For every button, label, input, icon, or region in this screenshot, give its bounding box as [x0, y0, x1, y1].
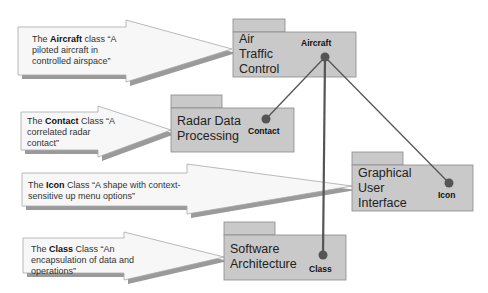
- callout-text-icon: The Icon Class “A shape with context-sen…: [28, 180, 188, 202]
- class-label-contact: Contact: [248, 126, 280, 136]
- class-label-icon: Icon: [438, 190, 455, 200]
- package-name-line: Air: [239, 32, 279, 47]
- aircraft-dot-icon: [321, 53, 330, 62]
- class-label-class: Class: [309, 264, 332, 274]
- contact-dot-icon: [262, 115, 271, 124]
- package-name-line: Radar Data: [177, 114, 241, 129]
- callout-prefix: The: [28, 180, 46, 190]
- callout-text-aircraft: The Aircraft class “A piloted aircraft i…: [32, 34, 127, 67]
- class-label-aircraft: Aircraft: [301, 38, 331, 48]
- callout-text-contact: The Contact Class “A correlated radar co…: [27, 116, 117, 149]
- connector-aircraft-class: [323, 57, 325, 255]
- package-name-line: Processing: [177, 129, 241, 144]
- package-name-line: Architecture: [230, 257, 297, 272]
- package-name-line: Traffic: [239, 47, 279, 62]
- callout-bold: Icon: [46, 180, 65, 190]
- callout-prefix: The: [31, 244, 49, 254]
- class-dot-icon: [319, 251, 328, 260]
- package-name-software-architecture: Software Architecture: [230, 242, 297, 272]
- package-name-air-traffic-control: Air Traffic Control: [239, 32, 279, 77]
- package-name-line: Software: [230, 242, 297, 257]
- package-name-graphical-user-interface: Graphical User Interface: [358, 166, 412, 211]
- callout-bold: Aircraft: [50, 34, 82, 44]
- package-name-line: Control: [239, 62, 279, 77]
- callout-bold: Contact: [45, 116, 79, 126]
- icon-dot-icon: [445, 179, 454, 188]
- package-name-radar-data-processing: Radar Data Processing: [177, 114, 241, 144]
- package-name-line: Graphical: [358, 166, 412, 181]
- package-name-line: User: [358, 181, 412, 196]
- package-name-line: Interface: [358, 196, 412, 211]
- callout-bold: Class: [49, 244, 73, 254]
- callout-text-class: The Class Class “An encapsulation of dat…: [31, 244, 171, 277]
- callout-prefix: The: [32, 34, 50, 44]
- callout-prefix: The: [27, 116, 45, 126]
